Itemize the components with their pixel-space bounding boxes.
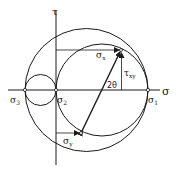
sigma-x-label: σx [96,50,106,61]
sigma-y-label: σy [63,136,73,148]
tau-xy-label: τxy [124,68,136,80]
sigma1-point [146,88,149,91]
sigma2-label: σ2 [57,95,67,106]
tau-axis-label: τ [52,6,58,17]
sigma-x-point [120,49,123,52]
mohr-circle-diagram: τ σ σ3 σ2 σ1 σx σy τxy 2θ [0,0,179,170]
sigma-axis-label: σ [162,85,170,98]
sigma3-point [23,88,26,91]
sigma2-point [54,88,57,91]
stress-diameter-line [82,52,120,131]
sigma3-label: σ3 [10,95,20,106]
sigma-y-point [80,132,83,135]
angle-2theta-label: 2θ [107,81,117,90]
sigma1-label: σ1 [148,95,158,106]
